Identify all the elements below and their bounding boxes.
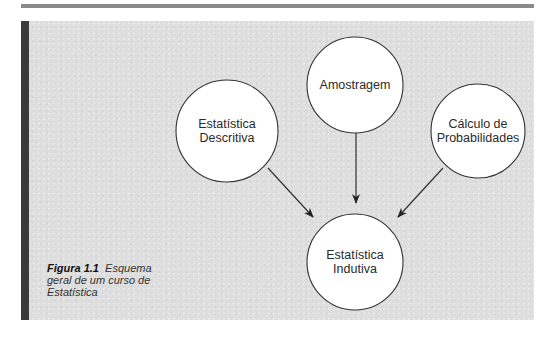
- node-label-line: Descritiva: [198, 131, 256, 145]
- node-label-line: Indutiva: [326, 262, 384, 276]
- node-label-line: Amostragem: [320, 78, 391, 92]
- node-descritiva-label: Estatística Descritiva: [198, 117, 256, 145]
- node-label-line: Estatística: [326, 248, 384, 262]
- node-label-line: Estatística: [198, 117, 256, 131]
- node-label-line: Cálculo de: [437, 117, 520, 131]
- node-amostragem-label: Amostragem: [320, 78, 391, 92]
- node-label-line: Probabilidades: [437, 131, 520, 145]
- node-indutiva-label: Estatística Indutiva: [326, 248, 384, 276]
- node-probabilidades-label: Cálculo de Probabilidades: [437, 117, 520, 145]
- arrow-probabilidades-to-indutiva: [398, 168, 443, 217]
- figure-number: Figura 1.1: [47, 262, 99, 274]
- arrow-descritiva-to-indutiva: [268, 168, 313, 217]
- figure-caption: Figura 1.1 Esquema geral de um curso de …: [47, 262, 167, 298]
